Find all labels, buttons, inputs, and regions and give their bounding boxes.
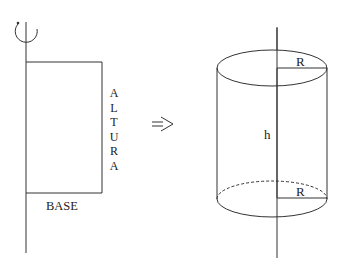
altura-letter: R [108, 144, 120, 159]
radius-bottom-label: R [296, 185, 305, 198]
altura-letter: U [108, 130, 120, 145]
bottom-ellipse-back [217, 181, 327, 199]
altura-label: A L T U R A [108, 86, 120, 173]
base-label: BASE [46, 200, 78, 213]
radius-top-label: R [296, 55, 305, 68]
height-label: h [264, 128, 271, 141]
altura-letter: A [108, 86, 120, 101]
altura-letter: T [108, 115, 120, 130]
diagram-canvas: A L T U R A BASE R h R [0, 0, 344, 266]
bottom-ellipse-front [217, 199, 327, 217]
altura-letter: L [108, 101, 120, 116]
rectangle [26, 62, 102, 193]
transform-arrow [152, 117, 173, 131]
diagram-svg [0, 0, 344, 266]
altura-letter: A [108, 159, 120, 174]
left-figure [15, 22, 102, 253]
right-figure [217, 27, 327, 258]
